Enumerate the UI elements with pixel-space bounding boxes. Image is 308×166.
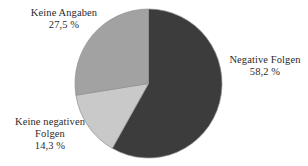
slice-label-negative-folgen-name: Negative Folgen bbox=[222, 54, 308, 66]
slice-label-keine-negativen-folgen-value: 14,3 % bbox=[2, 140, 98, 152]
slice-label-keine-negativen-folgen-name-line2: Folgen bbox=[2, 128, 98, 140]
slice-label-keine-angaben: Keine Angaben 27,5 % bbox=[14, 7, 114, 31]
slice-label-negative-folgen: Negative Folgen 58,2 % bbox=[222, 54, 308, 78]
pie-chart-figure: Keine Angaben 27,5 % Negative Folgen 58,… bbox=[0, 0, 308, 166]
slice-label-keine-angaben-name: Keine Angaben bbox=[14, 7, 114, 19]
slice-label-keine-negativen-folgen: Keine negativen Folgen 14,3 % bbox=[2, 116, 98, 152]
slice-label-keine-angaben-value: 27,5 % bbox=[14, 19, 114, 31]
slice-label-negative-folgen-value: 58,2 % bbox=[222, 66, 308, 78]
slice-label-keine-negativen-folgen-name-line1: Keine negativen bbox=[2, 116, 98, 128]
